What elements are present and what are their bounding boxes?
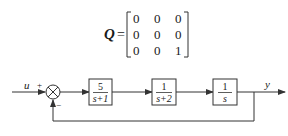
matrix-cell-1-0: 0 (133, 27, 140, 42)
plus-sign: + (37, 80, 42, 90)
equals-sign: = (117, 27, 125, 42)
input-label: u (24, 79, 30, 91)
matrix-cell-0-2: 0 (175, 11, 182, 26)
right-bracket (184, 12, 188, 57)
block-1: 5 s+1 (89, 79, 112, 105)
block-1-numerator: 5 (98, 81, 103, 92)
block-2-numerator: 1 (162, 81, 167, 92)
diagram-canvas: Q = 0 0 0 0 0 0 0 0 1 u + − 5 (0, 0, 288, 136)
block-3: 1 s (213, 79, 237, 105)
block-2: 1 s+2 (152, 79, 176, 105)
matrix-cell-2-1: 0 (154, 43, 161, 58)
matrix-cell-2-2: 1 (175, 43, 182, 58)
matrix-symbol: Q (104, 26, 115, 42)
block-2-denominator: s+2 (156, 93, 172, 104)
matrix-q: Q = 0 0 0 0 0 0 0 0 1 (104, 11, 188, 58)
summing-junction-icon (46, 85, 60, 99)
block-diagram: u + − 5 s+1 1 s+2 1 (12, 78, 285, 121)
block-3-denominator: s (223, 93, 227, 104)
output-label: y (264, 78, 270, 90)
matrix-cell-0-1: 0 (154, 11, 161, 26)
matrix-cell-1-2: 0 (175, 27, 182, 42)
block-3-numerator: 1 (223, 81, 228, 92)
matrix-cell-1-1: 0 (154, 27, 161, 42)
matrix-cell-0-0: 0 (133, 11, 140, 26)
left-bracket (127, 12, 131, 57)
block-1-denominator: s+1 (93, 93, 109, 104)
matrix-cell-2-0: 0 (133, 43, 140, 58)
minus-sign: − (56, 100, 61, 110)
